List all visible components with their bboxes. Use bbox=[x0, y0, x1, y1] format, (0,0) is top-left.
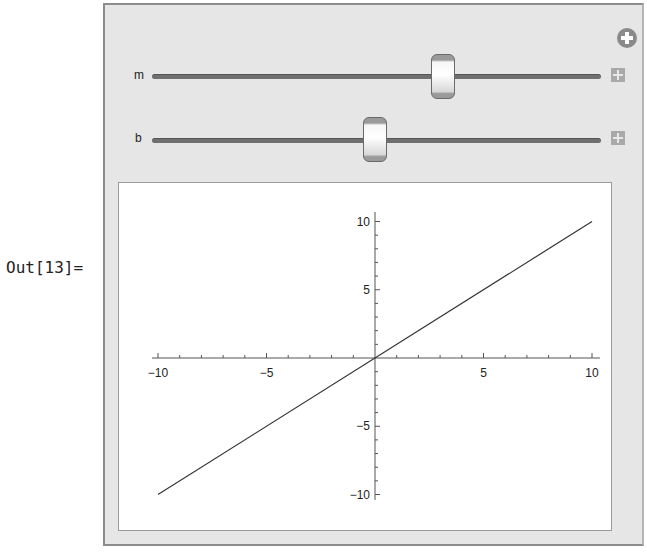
x-tick-label: 10 bbox=[585, 366, 599, 380]
y-tick-label: −10 bbox=[350, 488, 371, 502]
y-tick-label: −5 bbox=[356, 419, 370, 433]
line-chart: −10−5510−10−5510 bbox=[0, 0, 647, 555]
y-tick-label: 10 bbox=[357, 215, 371, 229]
x-tick-label: −5 bbox=[260, 366, 274, 380]
x-tick-label: 5 bbox=[480, 366, 487, 380]
x-tick-label: −10 bbox=[148, 366, 169, 380]
y-tick-label: 5 bbox=[363, 283, 370, 297]
